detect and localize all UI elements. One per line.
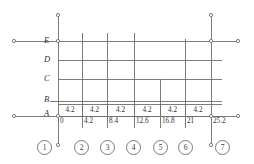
bay-dimension-3: 4.2 — [107, 107, 134, 114]
station-label-3: 8.4 — [109, 118, 118, 125]
node-col1-top — [56, 13, 59, 16]
level-label-D: D — [44, 55, 50, 64]
bay-dimension-2: 4.2 — [82, 107, 107, 114]
grid-bubble-3[interactable]: 3 — [100, 140, 115, 155]
node-col1-bottom — [56, 143, 59, 146]
node-E-right — [236, 39, 239, 42]
grid-bubble-1[interactable]: 1 — [37, 140, 52, 155]
level-label-C: C — [44, 74, 50, 83]
grid-bubble-label: 1 — [43, 143, 47, 152]
station-label-2: 4.2 — [84, 118, 93, 125]
grid-bubble-label: 4 — [132, 143, 136, 152]
station-label-7: 25.2 — [213, 118, 226, 125]
station-label-1: 0 — [60, 118, 64, 125]
node-col7-bottom — [209, 143, 212, 146]
grid-bubble-label: 7 — [221, 143, 225, 152]
node-A-left — [12, 114, 15, 117]
bay-dimension-4: 4.2 — [134, 107, 160, 114]
grid-bubble-6[interactable]: 6 — [178, 140, 193, 155]
node-col1-E — [56, 39, 59, 42]
level-label-A: A — [44, 109, 49, 118]
node-col7-top — [209, 13, 212, 16]
grid-bubble-label: 5 — [159, 143, 163, 152]
node-E-left — [12, 39, 15, 42]
grid-bubble-label: 2 — [80, 143, 84, 152]
node-col7-E — [209, 39, 212, 42]
bay-dimension-5: 4.2 — [160, 107, 185, 114]
level-label-B: B — [44, 95, 49, 104]
bay-dimension-1: 4.2 — [58, 107, 82, 114]
grid-bubble-4[interactable]: 4 — [126, 140, 141, 155]
grid-bubble-label: 3 — [106, 143, 110, 152]
grid-bubble-label: 6 — [184, 143, 188, 152]
bay-dimension-6: 4.2 — [185, 107, 211, 114]
station-label-6: 21 — [187, 118, 194, 125]
station-label-5: 16.8 — [162, 118, 175, 125]
grid-bubble-5[interactable]: 5 — [153, 140, 168, 155]
station-label-4: 12.6 — [136, 118, 149, 125]
grid-linework — [0, 0, 254, 164]
grid-bubble-7[interactable]: 7 — [215, 140, 230, 155]
drawing-canvas: E D C B A 4.2 4.2 4.2 4.2 4.2 4.2 0 4.2 … — [0, 0, 254, 164]
grid-bubble-2[interactable]: 2 — [74, 140, 89, 155]
node-A-right — [236, 114, 239, 117]
level-label-E: E — [44, 36, 49, 45]
